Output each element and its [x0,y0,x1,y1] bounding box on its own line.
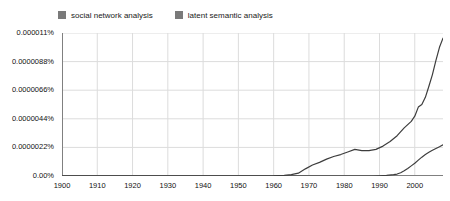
legend-item-label: social network analysis [71,11,153,20]
y-tick-label: 0.0000022% [0,143,58,151]
x-tick-label: 1920 [124,181,141,190]
plot-area [62,33,443,176]
x-tick-label: 1980 [336,181,353,190]
y-tick-label: 0.0000088% [0,58,58,66]
x-tick-label: 1950 [230,181,247,190]
x-tick-label: 1940 [195,181,212,190]
y-axis: 0.000011%0.0000088%0.0000066%0.0000044%0… [0,33,58,176]
x-tick-label: 1930 [159,181,176,190]
x-tick-label: 2000 [406,181,423,190]
y-tick-label: 0.000011% [0,29,58,37]
x-tick-label: 1970 [301,181,318,190]
legend-item-latent-semantic-analysis[interactable]: latent semantic analysis [175,11,273,20]
x-tick-label: 1960 [265,181,282,190]
chart-canvas [62,33,443,176]
ngram-chart: social network analysis latent semantic … [0,0,450,201]
legend-swatch-icon [58,11,66,19]
legend-item-social-network-analysis[interactable]: social network analysis [58,11,153,20]
y-tick-label: 0.0000066% [0,86,58,94]
x-tick-label: 1910 [89,181,106,190]
chart-legend: social network analysis latent semantic … [58,8,273,22]
x-axis: 1900191019201930194019501960197019801990… [62,181,443,193]
legend-item-label: latent semantic analysis [188,11,273,20]
x-tick-label: 1990 [371,181,388,190]
y-tick-label: 0.00% [0,172,58,180]
x-tick-label: 1900 [54,181,71,190]
y-tick-label: 0.0000044% [0,115,58,123]
legend-swatch-icon [175,11,183,19]
